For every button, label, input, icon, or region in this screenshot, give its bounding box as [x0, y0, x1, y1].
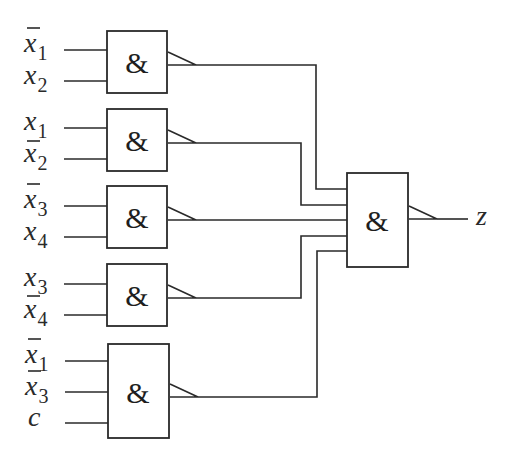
g4-in2-label: x4 [23, 293, 47, 330]
g1-in2-label: x2 [23, 59, 47, 96]
logic-circuit-diagram: & x1 x2 & x1 x2 & x3 x4 & [0, 0, 508, 459]
g3-output-flag-icon [168, 207, 196, 220]
g5-output-wire [198, 251, 347, 397]
g2-output-wire [196, 143, 347, 205]
g1-and-symbol: & [125, 46, 148, 79]
g4-output-wire [196, 236, 347, 298]
g2-and-symbol: & [125, 124, 148, 157]
g1-output-flag-icon [168, 52, 196, 65]
g5-output-flag-icon [170, 384, 198, 397]
g3-and-symbol: & [125, 201, 148, 234]
and-gate-2: & x1 x2 [23, 105, 347, 205]
g4-and-symbol: & [125, 279, 148, 312]
and-gate-4: & x3 x4 [23, 236, 347, 330]
g1-output-wire [196, 65, 347, 189]
final-and-symbol: & [365, 204, 388, 237]
g3-in2-label: x4 [23, 215, 47, 252]
final-output-flag-icon [409, 206, 437, 219]
g4-output-flag-icon [168, 285, 196, 298]
and-gate-1: & x1 x2 [23, 27, 347, 189]
g2-output-flag-icon [168, 130, 196, 143]
g2-in2-label: x2 [23, 137, 47, 174]
g5-in3-label: c [28, 401, 41, 432]
g5-and-symbol: & [126, 376, 149, 409]
output-label-z: z [475, 200, 487, 231]
and-gate-final: & z [347, 173, 487, 267]
and-gate-5: & x1 x3 c [24, 251, 347, 438]
and-gate-3: & x3 x4 [23, 183, 347, 252]
